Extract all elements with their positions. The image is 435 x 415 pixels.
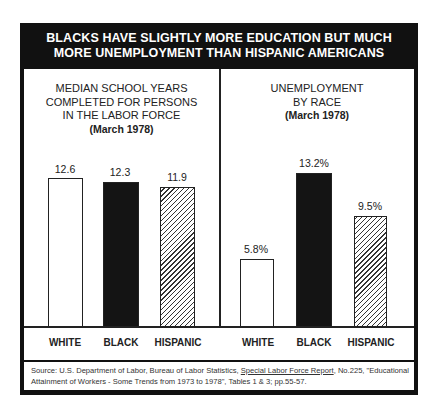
source-line-2: Attainment of Workers - Some Trends from… <box>31 376 414 387</box>
chart-baseline <box>24 326 414 328</box>
value-label-white-education: 12.6 <box>40 163 90 175</box>
source-line-1: Source: U.S. Department of Labor, Bureau… <box>31 365 414 376</box>
charts-panel: MEDIAN SCHOOL YEARS COMPLETED FOR PERSON… <box>24 69 414 360</box>
bar-white-education <box>48 178 83 327</box>
value-label-black-education: 12.3 <box>95 166 145 178</box>
right-subtitle-line-1: UNEMPLOYMENT <box>220 82 414 96</box>
bar-white-unemployment <box>240 259 274 327</box>
value-label-hispanic-unemployment: 9.5% <box>345 200 395 212</box>
left-subtitle-date: (March 1978) <box>24 123 219 137</box>
category-label-hispanic-left: HISPANIC <box>143 337 213 348</box>
left-subtitle-line-3: IN THE LABOR FORCE <box>24 109 219 123</box>
right-subtitle-line-2: BY RACE <box>220 96 414 110</box>
bar-hispanic-education <box>160 187 195 327</box>
category-label-hispanic-right: HISPANIC <box>336 337 406 348</box>
bar-black-unemployment <box>296 173 332 327</box>
bar-black-education <box>103 182 139 327</box>
chart-title: BLACKS HAVE SLIGHTLY MORE EDUCATION BUT … <box>20 23 418 69</box>
bar-hispanic-unemployment <box>354 216 387 327</box>
left-chart-subtitle: MEDIAN SCHOOL YEARS COMPLETED FOR PERSON… <box>24 82 219 136</box>
left-subtitle-line-1: MEDIAN SCHOOL YEARS <box>24 82 219 96</box>
source-suffix: , No.225, "Educational <box>334 366 409 375</box>
source-prefix: Source: U.S. Department of Labor, Bureau… <box>31 366 241 375</box>
source-report-title: Special Labor Force Report <box>241 366 334 375</box>
title-line-2: MORE UNEMPLOYMENT THAN HISPANIC AMERICAN… <box>20 46 418 61</box>
value-label-hispanic-education: 11.9 <box>152 171 202 183</box>
left-subtitle-line-2: COMPLETED FOR PERSONS <box>24 96 219 110</box>
infographic-frame: BLACKS HAVE SLIGHTLY MORE EDUCATION BUT … <box>20 23 418 395</box>
source-note: Source: U.S. Department of Labor, Bureau… <box>24 362 414 390</box>
right-subtitle-date: (March 1978) <box>220 109 414 123</box>
title-line-1: BLACKS HAVE SLIGHTLY MORE EDUCATION BUT … <box>20 31 418 46</box>
value-label-black-unemployment: 13.2% <box>289 157 339 169</box>
right-chart-subtitle: UNEMPLOYMENT BY RACE (March 1978) <box>220 82 414 123</box>
value-label-white-unemployment: 5.8% <box>231 243 281 255</box>
panel-divider <box>219 69 221 326</box>
